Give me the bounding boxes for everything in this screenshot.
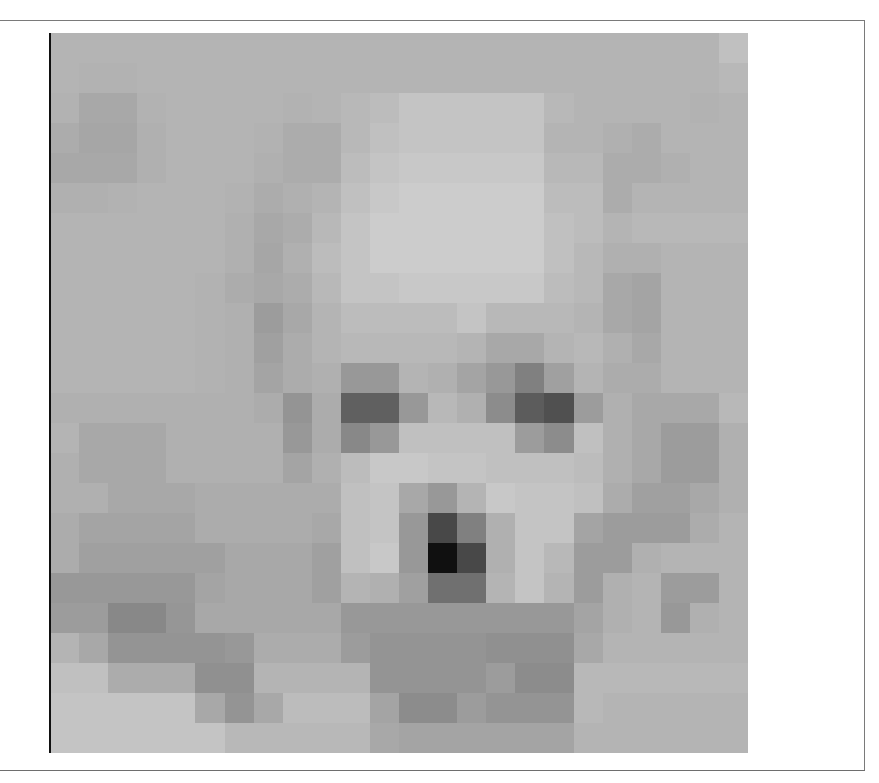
image-pixel — [50, 333, 79, 363]
image-pixel — [108, 303, 137, 333]
image-pixel — [719, 63, 748, 93]
image-pixel — [137, 33, 166, 63]
image-pixel — [515, 183, 544, 213]
image-pixel — [283, 663, 312, 693]
image-pixel — [515, 393, 544, 423]
image-pixel — [661, 93, 690, 123]
image-pixel — [312, 63, 341, 93]
image-pixel — [79, 543, 108, 573]
image-pixel — [108, 333, 137, 363]
image-pixel — [690, 153, 719, 183]
image-pixel — [690, 93, 719, 123]
image-pixel — [457, 543, 486, 573]
image-pixel — [719, 603, 748, 633]
image-pixel — [283, 573, 312, 603]
image-pixel — [428, 603, 457, 633]
image-pixel — [254, 723, 283, 753]
image-pixel — [50, 573, 79, 603]
image-pixel — [690, 633, 719, 663]
image-pixel — [428, 693, 457, 723]
image-pixel — [79, 183, 108, 213]
image-pixel — [399, 393, 428, 423]
image-pixel — [50, 123, 79, 153]
image-pixel — [486, 513, 515, 543]
image-pixel — [283, 333, 312, 363]
image-pixel — [486, 663, 515, 693]
image-pixel — [515, 723, 544, 753]
image-pixel — [544, 93, 573, 123]
image-pixel — [603, 303, 632, 333]
image-pixel — [370, 633, 399, 663]
image-pixel — [719, 513, 748, 543]
image-pixel — [603, 573, 632, 603]
image-pixel — [574, 393, 603, 423]
image-pixel — [370, 663, 399, 693]
image-pixel — [137, 123, 166, 153]
image-pixel — [574, 33, 603, 63]
image-pixel — [50, 423, 79, 453]
image-pixel — [195, 723, 224, 753]
image-pixel — [661, 393, 690, 423]
image-pixel — [166, 543, 195, 573]
image-pixel — [603, 63, 632, 93]
image-pixel — [370, 483, 399, 513]
image-pixel — [690, 693, 719, 723]
image-pixel — [137, 393, 166, 423]
image-pixel — [254, 153, 283, 183]
image-pixel — [632, 693, 661, 723]
image-pixel — [166, 303, 195, 333]
image-pixel — [137, 153, 166, 183]
image-pixel — [661, 603, 690, 633]
image-pixel — [254, 123, 283, 153]
image-pixel — [544, 603, 573, 633]
image-pixel — [603, 723, 632, 753]
image-pixel — [166, 603, 195, 633]
image-pixel — [399, 513, 428, 543]
image-pixel — [108, 183, 137, 213]
image-pixel — [603, 273, 632, 303]
image-pixel — [399, 183, 428, 213]
image-pixel — [79, 663, 108, 693]
image-pixel — [312, 303, 341, 333]
image-pixel — [341, 183, 370, 213]
image-pixel — [341, 513, 370, 543]
image-pixel — [603, 183, 632, 213]
image-pixel — [457, 423, 486, 453]
image-pixel — [283, 543, 312, 573]
image-pixel — [225, 333, 254, 363]
image-pixel — [254, 243, 283, 273]
image-pixel — [661, 663, 690, 693]
figure-frame-right-border — [864, 20, 865, 771]
image-pixel — [632, 33, 661, 63]
image-pixel — [690, 663, 719, 693]
image-pixel — [399, 363, 428, 393]
image-pixel — [399, 213, 428, 243]
image-pixel — [486, 393, 515, 423]
image-pixel — [254, 663, 283, 693]
image-pixel — [137, 513, 166, 543]
image-pixel — [50, 693, 79, 723]
image-pixel — [137, 93, 166, 123]
image-pixel — [254, 633, 283, 663]
image-pixel — [225, 693, 254, 723]
image-pixel — [690, 123, 719, 153]
image-pixel — [515, 483, 544, 513]
image-pixel — [719, 273, 748, 303]
image-pixel — [574, 153, 603, 183]
image-pixel — [50, 723, 79, 753]
image-pixel — [574, 423, 603, 453]
image-pixel — [515, 333, 544, 363]
image-pixel — [719, 453, 748, 483]
image-pixel — [603, 363, 632, 393]
image-pixel — [544, 303, 573, 333]
image-pixel — [225, 123, 254, 153]
image-pixel — [137, 663, 166, 693]
image-pixel — [457, 393, 486, 423]
image-pixel — [428, 303, 457, 333]
image-pixel — [312, 573, 341, 603]
image-pixel — [719, 303, 748, 333]
image-pixel — [254, 183, 283, 213]
image-pixel — [690, 543, 719, 573]
image-pixel — [341, 453, 370, 483]
image-pixel — [719, 483, 748, 513]
